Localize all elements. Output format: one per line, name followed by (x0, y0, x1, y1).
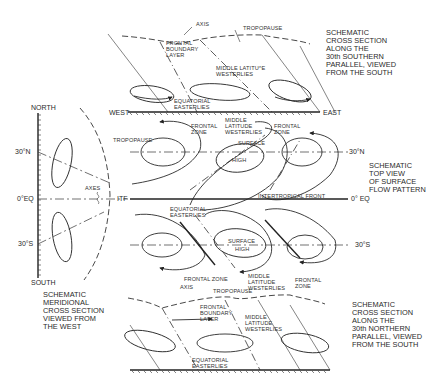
label-eq-view: 0° EQ (351, 195, 370, 203)
label-middle-latitude-westerlies-n: MIDDLE LATITUDE WESTERLIES (225, 117, 262, 136)
label-south: SOUTH (31, 279, 56, 287)
label-surface-s: SURFACE (228, 238, 255, 244)
label-axes: AXES (85, 185, 100, 191)
label-frontal-zone-sw: FRONTAL ZONE (184, 276, 228, 282)
label-frontal-boundary-layer-bottom: FRONTAL BOUNDARY LAYER (200, 304, 232, 323)
label-frontal-zone-ne: FRONTAL ZONE (274, 123, 300, 135)
label-axis-bottom: AXIS (180, 284, 193, 290)
label-east: EAST (323, 109, 341, 117)
label-tropopause-top: TROPOPAUSE (243, 25, 282, 31)
label-30s-meridional: 30°S (18, 240, 33, 248)
caption-top-view: SCHEMATIC TOP VIEW OF SURFACE FLOW PATTE… (369, 162, 426, 194)
circulation-diagram: AXIS TROPOPAUSE FRONTAL BOUNDARY LAYER M… (0, 0, 444, 387)
caption-northern-cross-section: SCHEMATIC CROSS SECTION ALONG THE 30th N… (352, 301, 422, 350)
caption-meridional: SCHEMATIC MERIDIONAL CROSS SECTION VIEWE… (43, 291, 104, 331)
label-north: NORTH (31, 104, 56, 112)
label-surface-n: SURFACE (238, 140, 265, 146)
label-frontal-zone-nw: FRONTAL ZONE (191, 123, 217, 135)
label-high-s: HIGH (235, 246, 249, 252)
label-30n-view: 30°N (349, 148, 365, 156)
label-eq-meridional: 0°EQ (17, 195, 34, 203)
label-west: WEST (109, 109, 129, 117)
meridional-section (38, 108, 128, 280)
label-tropopause-bottom: TROPOPAUSE (213, 288, 252, 294)
caption-southern-cross-section: SCHEMATIC CROSS SECTION ALONG THE 30th S… (326, 29, 396, 78)
label-tropopause-meridional: TROPOPAUSE (113, 137, 152, 143)
label-equatorial-easterlies-view: EQUATORIAL EASTERLIES (170, 206, 207, 218)
label-frontal-zone-se: FRONTAL ZONE (295, 277, 321, 289)
label-middle-latitude-westerlies-top: MIDDLE LATITU^E WESTERLIES (216, 65, 265, 77)
label-middle-latitude-westerlies-bottom: MIDDLE LATITUDE WESTERLIES (245, 314, 282, 333)
label-frontal-boundary-layer-top: FRONTAL BOUNDARY LAYER (166, 40, 198, 59)
label-equatorial-easterlies-top: EQUATORIAL EASTERLIES (174, 98, 211, 110)
label-middle-latitude-westerlies-s: MIDDLE LATITUDE WESTERLIES (248, 273, 285, 292)
label-intertropical-front: INTERTROPICAL FRONT (258, 193, 325, 199)
label-high-n: HIGH (232, 157, 246, 163)
label-30n-meridional: 30°N (15, 148, 31, 156)
label-axis-top: AXIS (196, 21, 209, 27)
label-itf: ITF (117, 195, 128, 203)
label-equatorial-easterlies-bottom: EQUATORIAL EASTERLIES (192, 357, 229, 369)
label-30s-view: 30°S (355, 241, 370, 249)
